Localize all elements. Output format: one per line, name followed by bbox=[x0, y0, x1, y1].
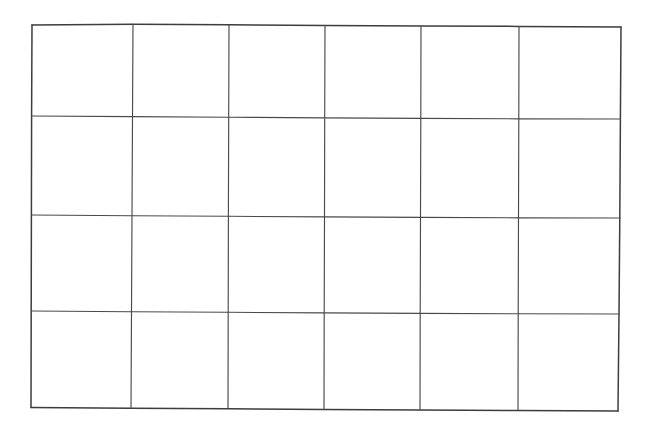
grid-cell[interactable] bbox=[32, 25, 133, 117]
grid-cell[interactable] bbox=[228, 216, 324, 313]
grid-cell[interactable] bbox=[132, 216, 229, 313]
grid-cell[interactable] bbox=[132, 117, 229, 217]
grid-cell-layer bbox=[31, 25, 621, 411]
grid-cell[interactable] bbox=[324, 217, 420, 314]
grid-cell[interactable] bbox=[420, 313, 518, 411]
grid-cell[interactable] bbox=[32, 116, 133, 216]
hand-drawn-grid bbox=[0, 0, 647, 432]
grid-cell[interactable] bbox=[518, 218, 619, 315]
grid-cell[interactable] bbox=[420, 217, 518, 314]
grid-cell[interactable] bbox=[31, 311, 132, 409]
grid-cell[interactable] bbox=[519, 119, 621, 219]
grid-cell[interactable] bbox=[325, 26, 421, 118]
grid-cell[interactable] bbox=[131, 312, 228, 410]
grid-cell[interactable] bbox=[421, 118, 519, 218]
grid-cell[interactable] bbox=[324, 313, 420, 411]
grid-cell[interactable] bbox=[229, 26, 325, 118]
grid-cell[interactable] bbox=[325, 118, 421, 218]
grid-cell[interactable] bbox=[518, 314, 619, 412]
grid-cell[interactable] bbox=[133, 25, 230, 117]
grid-cell[interactable] bbox=[519, 27, 621, 119]
grid-cell[interactable] bbox=[229, 117, 325, 217]
grid-cell[interactable] bbox=[228, 312, 324, 410]
page-canvas bbox=[0, 0, 647, 432]
grid-cell[interactable] bbox=[421, 26, 519, 118]
grid-cell[interactable] bbox=[31, 215, 132, 312]
